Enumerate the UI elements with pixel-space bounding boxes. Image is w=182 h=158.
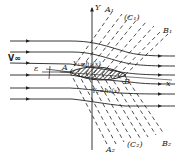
- lower-rear-characteristic-label: B₂: [161, 139, 171, 148]
- upper-surface-label: Y₁=h₁(x): [73, 60, 101, 68]
- lower-family-label: (C₂): [127, 140, 143, 149]
- airfoil: [70, 67, 126, 80]
- leading-edge-label: A: [61, 63, 68, 72]
- angle-label: ε: [34, 64, 38, 73]
- airfoil-flow-diagram: V∞ ε A B x Y Y₁=h₁(x) Y₂=h₂(x) A₁ (C₁) B…: [0, 0, 182, 158]
- lower-surface-label: Y₂=h₂(x): [92, 87, 120, 95]
- upper-rear-characteristic-label: B₁: [162, 26, 172, 35]
- upper-front-characteristic-label: A₁: [104, 5, 114, 14]
- lower-front-characteristic-label: A₂: [105, 145, 115, 154]
- x-axis-label: x: [166, 79, 171, 88]
- freestream-velocity-label: V∞: [8, 54, 21, 63]
- upper-family-label: (C₁): [124, 13, 140, 22]
- streamline-arrows-left: [26, 39, 30, 100]
- streamline-arrows-right: [158, 54, 162, 107]
- y-axis-label: Y: [95, 3, 101, 12]
- trailing-edge-label: B: [123, 77, 130, 86]
